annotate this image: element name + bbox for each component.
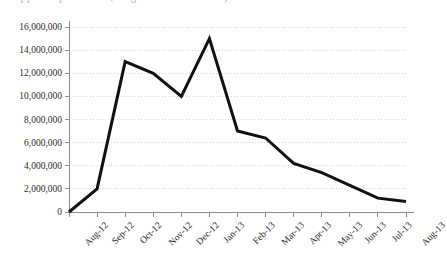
x-axis-tick-label: Apr-13 bbox=[307, 220, 333, 246]
x-axis-tick-label: Jun-13 bbox=[362, 220, 387, 245]
x-axis-tick-label: Feb-13 bbox=[250, 220, 276, 246]
x-axis-tick-label: Aug-13 bbox=[420, 220, 447, 248]
x-axis-tick-label: Sep-12 bbox=[110, 220, 136, 246]
x-axis-tick-label: May-13 bbox=[336, 220, 364, 248]
x-axis-tick-label: Jul-13 bbox=[390, 220, 414, 244]
x-axis-tick-label: Jan-13 bbox=[222, 220, 247, 245]
x-axis-tick-label: Mar-13 bbox=[279, 220, 306, 247]
x-axis-tick-label: Oct-12 bbox=[138, 220, 164, 246]
x-axis-tick-label: Nov-12 bbox=[167, 220, 195, 248]
x-axis-tick-label: Dec-12 bbox=[195, 220, 222, 247]
x-axis-tick-label: Aug-12 bbox=[83, 220, 111, 248]
